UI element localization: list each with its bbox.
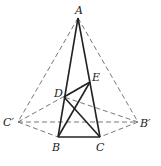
label-a: A — [74, 4, 83, 17]
label-e: E — [91, 71, 100, 84]
label-b: B — [51, 141, 60, 154]
dashed-lines — [18, 18, 138, 137]
label-d: D — [53, 87, 63, 100]
dashed-segment-cp-b — [18, 122, 58, 137]
label-c-prime: C′ — [3, 116, 14, 129]
geometry-diagram: A B C D E C′ B′ — [0, 0, 161, 166]
label-c: C — [96, 141, 105, 154]
label-b-prime: B′ — [139, 117, 151, 130]
dashed-segment-bp-c — [100, 122, 138, 137]
